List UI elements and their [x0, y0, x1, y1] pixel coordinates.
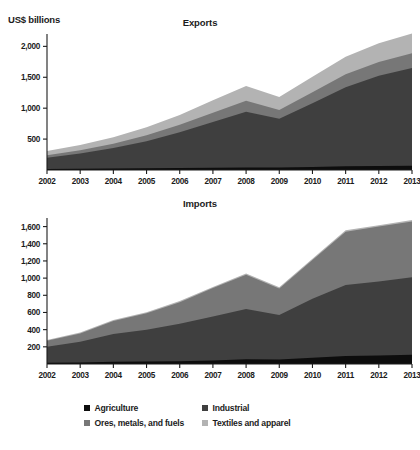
svg-text:2013: 2013	[403, 371, 420, 380]
svg-text:2003: 2003	[72, 371, 90, 380]
legend-swatch-agriculture	[84, 405, 90, 411]
svg-text:2011: 2011	[337, 177, 354, 186]
imports-panel: Imports 2004006008001,0001,2001,4001,600…	[0, 196, 420, 391]
svg-text:2004: 2004	[105, 177, 123, 186]
svg-text:1,200: 1,200	[21, 257, 41, 266]
legend-label-ores-metals-and-fuels: Ores, metals, and fuels	[95, 418, 185, 428]
svg-text:2009: 2009	[271, 371, 289, 380]
svg-text:2006: 2006	[171, 177, 189, 186]
legend-item-ores-metals-and-fuels: Ores, metals, and fuels	[84, 418, 202, 428]
legend-label-agriculture: Agriculture	[95, 403, 139, 413]
svg-text:2010: 2010	[304, 371, 322, 380]
svg-text:2005: 2005	[138, 177, 156, 186]
legend-swatch-industrial	[202, 405, 208, 411]
svg-text:2007: 2007	[204, 177, 222, 186]
svg-text:2009: 2009	[271, 177, 289, 186]
exports-area-chart: 5001,0001,5002,0002002200320042005200620…	[0, 10, 420, 200]
svg-text:200: 200	[27, 343, 41, 352]
exports-panel: Exports 5001,0001,5002,00020022003200420…	[0, 10, 420, 200]
svg-text:2010: 2010	[304, 177, 322, 186]
svg-text:2007: 2007	[204, 371, 222, 380]
svg-text:2008: 2008	[238, 177, 256, 186]
legend-item-agriculture: Agriculture	[84, 403, 202, 413]
svg-text:1,000: 1,000	[21, 274, 41, 283]
legend-item-textiles-and-apparel: Textiles and apparel	[202, 418, 337, 428]
legend-swatch-textiles-and-apparel	[202, 420, 208, 426]
svg-text:2011: 2011	[337, 371, 354, 380]
svg-text:500: 500	[27, 135, 41, 144]
legend-swatch-ores-metals-and-fuels	[84, 420, 90, 426]
svg-text:2012: 2012	[370, 371, 388, 380]
svg-text:1,400: 1,400	[21, 240, 41, 249]
svg-text:1,000: 1,000	[21, 104, 41, 113]
svg-text:400: 400	[27, 326, 41, 335]
svg-text:2002: 2002	[38, 177, 56, 186]
imports-area-chart: 2004006008001,0001,2001,4001,60020022003…	[0, 196, 420, 391]
legend-label-textiles-and-apparel: Textiles and apparel	[213, 418, 291, 428]
legend-row-2: Ores, metals, and fuels Textiles and app…	[0, 415, 420, 430]
svg-text:2005: 2005	[138, 371, 156, 380]
legend-item-industrial: Industrial	[202, 403, 337, 413]
svg-text:2003: 2003	[72, 177, 90, 186]
svg-text:800: 800	[27, 291, 41, 300]
svg-text:1,600: 1,600	[21, 223, 41, 232]
legend-label-industrial: Industrial	[213, 403, 250, 413]
svg-text:1,500: 1,500	[21, 73, 41, 82]
chart-page: US$ billions Exports 5001,0001,5002,0002…	[0, 0, 420, 450]
svg-text:600: 600	[27, 308, 41, 317]
svg-text:2008: 2008	[238, 371, 256, 380]
svg-text:2012: 2012	[370, 177, 388, 186]
svg-text:2004: 2004	[105, 371, 123, 380]
legend-row-1: Agriculture Industrial	[0, 400, 420, 415]
svg-text:2002: 2002	[38, 371, 56, 380]
chart-legend: Agriculture Industrial Ores, metals, and…	[0, 400, 420, 430]
svg-text:2,000: 2,000	[21, 42, 41, 51]
svg-text:2013: 2013	[403, 177, 420, 186]
svg-text:2006: 2006	[171, 371, 189, 380]
